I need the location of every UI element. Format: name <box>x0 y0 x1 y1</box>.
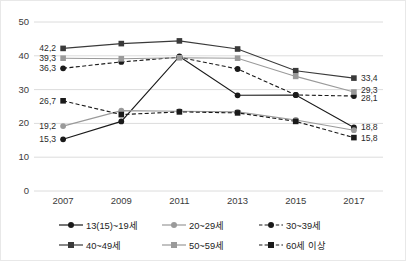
data-label-end: 15,8 <box>361 133 401 143</box>
data-point-marker <box>351 127 357 133</box>
series-line-3 <box>63 41 354 78</box>
data-point-marker <box>60 55 66 61</box>
data-label-end: 33,4 <box>361 73 401 83</box>
x-axis-tick-label: 2009 <box>96 195 146 206</box>
legend-label: 50~59세 <box>189 238 224 252</box>
series-line-0 <box>63 57 354 140</box>
x-axis-tick-label: 2011 <box>154 195 204 206</box>
legend-label: 13(15)~19세 <box>86 218 138 232</box>
legend-label: 20~29세 <box>189 218 224 232</box>
data-label-start: 19,2 <box>16 121 56 131</box>
legend-key-icon <box>59 220 83 230</box>
data-point-marker <box>119 41 125 47</box>
legend-label: 60세 이상 <box>286 238 326 252</box>
x-axis-tick-label: 2015 <box>271 195 321 206</box>
data-point-marker <box>60 98 66 104</box>
data-label-start: 39,3 <box>16 53 56 63</box>
y-axis-tick-label: 50 <box>7 16 29 27</box>
series-line-5 <box>63 101 354 138</box>
data-point-marker <box>235 46 241 52</box>
legend-key-icon <box>162 240 186 250</box>
y-axis-tick-label: 0 <box>7 185 29 196</box>
chart-legend: 13(15)~19세20~29세30~39세40~49세50~59세60세 이상 <box>59 215 359 255</box>
data-point-marker <box>60 46 66 52</box>
x-axis-tick-label: 2017 <box>329 195 379 206</box>
data-point-marker <box>118 119 124 125</box>
legend-key-icon <box>259 240 283 250</box>
legend-item-0[interactable]: 13(15)~19세 <box>59 218 162 232</box>
data-label-start: 36,3 <box>16 63 56 73</box>
data-point-marker <box>293 119 299 125</box>
x-axis-tick-label: 2007 <box>38 195 88 206</box>
x-axis-tick-label: 2013 <box>213 195 263 206</box>
data-label-end: 18,8 <box>361 122 401 132</box>
gridlines <box>34 22 383 191</box>
series-line-1 <box>63 111 354 131</box>
data-point-marker <box>235 92 241 98</box>
data-point-marker <box>235 110 241 116</box>
legend-item-4[interactable]: 50~59세 <box>162 238 259 252</box>
y-axis-tick-label: 30 <box>7 84 29 95</box>
data-point-marker <box>293 74 299 80</box>
data-point-marker <box>119 112 125 118</box>
data-point-marker <box>177 38 183 44</box>
data-point-marker <box>60 136 66 142</box>
data-point-marker <box>351 135 357 141</box>
data-point-marker <box>351 89 357 95</box>
legend-item-2[interactable]: 30~39세 <box>259 218 359 232</box>
data-label-end: 29,3 <box>361 85 401 95</box>
data-point-marker <box>177 55 183 61</box>
data-point-marker <box>351 75 357 81</box>
data-point-marker <box>119 56 125 62</box>
legend-item-1[interactable]: 20~29세 <box>162 218 259 232</box>
data-label-start: 26,7 <box>16 96 56 106</box>
data-point-marker <box>235 55 241 61</box>
data-label-start: 42,2 <box>16 43 56 53</box>
data-point-marker <box>60 65 66 71</box>
legend-key-icon <box>259 220 283 230</box>
legend-label: 30~39세 <box>286 218 321 232</box>
series-line-2 <box>63 57 354 96</box>
data-point-marker <box>177 109 183 115</box>
legend-key-icon <box>162 220 186 230</box>
data-point-marker <box>60 123 66 129</box>
series-line-4 <box>63 58 354 92</box>
legend-key-icon <box>59 240 83 250</box>
y-axis-tick-label: 10 <box>7 151 29 162</box>
legend-item-5[interactable]: 60세 이상 <box>259 238 359 252</box>
data-point-marker <box>235 66 241 72</box>
data-label-start: 15,3 <box>16 134 56 144</box>
legend-item-3[interactable]: 40~49세 <box>59 238 162 252</box>
legend-label: 40~49세 <box>86 238 121 252</box>
data-point-marker <box>293 68 299 74</box>
line-chart: 01020304050 200720092011201320152017 15,… <box>0 0 406 261</box>
data-point-marker <box>293 92 299 98</box>
